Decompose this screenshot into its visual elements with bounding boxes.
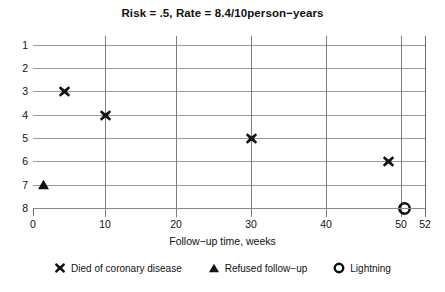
x-tick-label-30: 30: [231, 218, 271, 230]
follow-up-line-row-6: [33, 161, 425, 162]
y-tick-label-7: 7: [6, 180, 28, 190]
y-tick-label-6: 6: [6, 156, 28, 166]
x-marker-icon: [54, 262, 66, 274]
gridline-week-40: [326, 36, 327, 217]
y-tick-label-2: 2: [6, 63, 28, 73]
x-axis-line: [33, 208, 425, 209]
plot-area: [33, 45, 425, 208]
x-axis-title: Follow−up time, weeks: [0, 235, 445, 247]
follow-up-line-row-7: [33, 185, 425, 186]
y-tick-label-5: 5: [6, 133, 28, 143]
y-tick-label-1: 1: [6, 40, 28, 50]
follow-up-line-row-5: [33, 138, 425, 139]
y-tick-label-4: 4: [6, 110, 28, 120]
legend-label-died: Died of coronary disease: [71, 263, 182, 274]
marker-died-row-5: [245, 132, 258, 145]
chart-legend: Died of coronary disease Refused follow−…: [0, 262, 445, 274]
follow-up-line-row-3: [33, 91, 425, 92]
marker-refused-row-7: [37, 178, 50, 191]
gridline-week-30: [251, 36, 252, 217]
lexis-diagram-figure: Risk = .5, Rate = 8.4/10person−years 1 2…: [0, 0, 445, 292]
gridline-week-52: [425, 36, 426, 217]
legend-item-refused: Refused follow−up: [208, 262, 308, 274]
x-tick-label-20: 20: [156, 218, 196, 230]
marker-died-row-4: [99, 109, 112, 122]
gridline-week-10: [105, 36, 106, 217]
chart-title: Risk = .5, Rate = 8.4/10person−years: [0, 7, 445, 19]
legend-label-refused: Refused follow−up: [225, 263, 308, 274]
legend-item-lightning: Lightning: [333, 262, 391, 274]
marker-died-row-3: [58, 85, 71, 98]
x-tick-zero: [33, 209, 34, 216]
marker-died-row-6: [382, 155, 395, 168]
gridline-week-20: [176, 36, 177, 217]
x-tick-label-0: 0: [13, 218, 53, 230]
y-tick-label-8: 8: [6, 203, 28, 213]
legend-label-lightning: Lightning: [350, 263, 391, 274]
gridline-week-50: [401, 36, 402, 217]
legend-item-died: Died of coronary disease: [54, 262, 182, 274]
x-tick-label-40: 40: [306, 218, 346, 230]
circle-marker-icon: [333, 262, 345, 274]
follow-up-line-row-1: [33, 45, 425, 46]
x-tick-label-52: 52: [405, 218, 445, 230]
follow-up-line-row-4: [33, 115, 425, 116]
x-tick-label-10: 10: [85, 218, 125, 230]
triangle-marker-icon: [208, 262, 220, 274]
y-tick-label-3: 3: [6, 86, 28, 96]
follow-up-line-row-2: [33, 68, 425, 69]
